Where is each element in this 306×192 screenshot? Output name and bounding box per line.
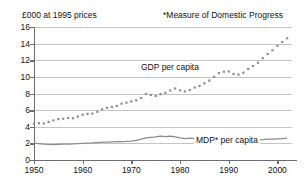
gdp-marker bbox=[271, 49, 273, 51]
gdp-marker bbox=[228, 70, 230, 72]
gdp-marker bbox=[106, 107, 108, 109]
gdp-marker bbox=[194, 86, 196, 88]
gdp-marker bbox=[257, 62, 259, 64]
gdp-marker bbox=[237, 73, 239, 75]
gdp-marker bbox=[198, 85, 200, 87]
x-tick bbox=[83, 160, 84, 164]
x-tick-label: 1990 bbox=[219, 166, 238, 175]
gdp-marker bbox=[213, 76, 215, 78]
gdp-marker bbox=[82, 114, 84, 116]
gdp-marker bbox=[155, 95, 157, 97]
gdp-marker bbox=[145, 93, 147, 95]
series-label-gdp: GDP per capita bbox=[139, 63, 201, 72]
y-tick-label: 12 bbox=[21, 56, 30, 65]
x-tick-label: 1950 bbox=[25, 166, 44, 175]
y-tick-label: 14 bbox=[21, 40, 30, 49]
gdp-marker bbox=[179, 89, 181, 91]
gdp-marker bbox=[125, 102, 127, 104]
gdp-marker bbox=[262, 57, 264, 59]
x-tick-label: 1970 bbox=[122, 166, 141, 175]
gdp-marker bbox=[281, 41, 283, 43]
chart-container: £000 at 1995 prices *Measure of Domestic… bbox=[0, 0, 306, 192]
x-tick-label: 1960 bbox=[73, 166, 92, 175]
y-axis-unit-label: £000 at 1995 prices bbox=[22, 10, 97, 20]
y-axis-tick-labels: 0246810121416 bbox=[0, 0, 30, 192]
x-tick bbox=[34, 160, 35, 164]
gdp-marker bbox=[86, 113, 88, 115]
gdp-marker bbox=[150, 94, 152, 96]
gdp-marker bbox=[276, 45, 278, 47]
gdp-marker bbox=[247, 68, 249, 70]
x-tick bbox=[180, 160, 181, 164]
gdp-marker bbox=[286, 37, 288, 39]
x-tick bbox=[277, 160, 278, 164]
gdp-marker bbox=[218, 72, 220, 74]
series-label-mdp: MDP* per capita bbox=[194, 136, 260, 145]
gdp-marker bbox=[116, 105, 118, 107]
x-tick bbox=[229, 160, 230, 164]
gdp-marker bbox=[159, 93, 161, 95]
gdp-marker bbox=[33, 123, 35, 125]
gdp-marker bbox=[67, 117, 69, 119]
y-tick-label: 10 bbox=[21, 73, 30, 82]
gdp-marker bbox=[208, 80, 210, 82]
gdp-marker bbox=[43, 122, 45, 124]
gdp-marker bbox=[164, 92, 166, 94]
gdp-marker bbox=[52, 119, 54, 121]
series-line-gdp bbox=[33, 37, 288, 125]
x-tick-label: 1980 bbox=[171, 166, 190, 175]
gdp-marker bbox=[169, 89, 171, 91]
gdp-marker bbox=[203, 82, 205, 84]
gdp-marker bbox=[223, 71, 225, 73]
gdp-marker bbox=[184, 90, 186, 92]
gdp-marker bbox=[38, 122, 40, 124]
gdp-marker bbox=[72, 117, 74, 119]
gdp-marker bbox=[130, 100, 132, 102]
gdp-marker bbox=[232, 73, 234, 75]
x-tick-label: 2000 bbox=[268, 166, 287, 175]
gdp-marker bbox=[189, 89, 191, 91]
gdp-marker bbox=[62, 118, 64, 120]
gdp-marker bbox=[135, 99, 137, 101]
x-axis-line bbox=[34, 160, 297, 161]
gdp-marker bbox=[57, 118, 59, 120]
gdp-marker bbox=[174, 87, 176, 89]
footnote-label: *Measure of Domestic Progress bbox=[163, 10, 283, 20]
gdp-marker bbox=[77, 116, 79, 118]
gdp-marker bbox=[252, 65, 254, 67]
gdp-marker bbox=[267, 53, 269, 55]
gdp-marker bbox=[140, 97, 142, 99]
gdp-marker bbox=[101, 108, 103, 110]
gdp-marker bbox=[48, 121, 50, 123]
gdp-marker bbox=[96, 111, 98, 113]
gdp-marker bbox=[121, 103, 123, 105]
y-tick-label: 16 bbox=[21, 23, 30, 32]
gdp-marker bbox=[91, 113, 93, 115]
gdp-marker bbox=[242, 72, 244, 74]
x-tick bbox=[131, 160, 132, 164]
gdp-marker bbox=[111, 106, 113, 108]
